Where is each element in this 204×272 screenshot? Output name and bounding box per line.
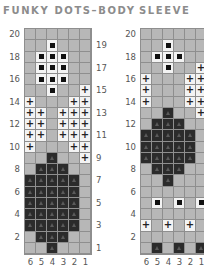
dot-icon [166, 54, 171, 59]
body-cell [47, 142, 58, 153]
triangle-icon [50, 212, 54, 216]
sleeve-cell [163, 142, 174, 153]
sleeve-cell [152, 232, 163, 243]
body-cell [80, 40, 91, 51]
triangle-icon [199, 246, 203, 250]
body-cell [58, 220, 69, 231]
body-cell [47, 164, 58, 175]
column-number-label: 4 [47, 257, 58, 267]
body-cell: + [80, 85, 91, 96]
row-number-label: 13 [96, 108, 107, 118]
plus-icon: + [26, 97, 34, 107]
sleeve-cell [196, 130, 204, 141]
body-cell [80, 175, 91, 186]
triangle-icon [39, 190, 43, 194]
row-number-label: 6 [6, 187, 20, 197]
body-cell [58, 209, 69, 220]
column-number-label: 2 [69, 257, 80, 267]
triangle-icon [28, 212, 32, 216]
body-cell [80, 232, 91, 243]
sleeve-cell [196, 198, 204, 209]
triangle-icon [155, 145, 159, 149]
body-cell: + [69, 142, 80, 153]
sleeve-cell [152, 209, 163, 220]
triangle-icon [50, 156, 54, 160]
sleeve-cell [185, 108, 196, 119]
body-cell [25, 40, 36, 51]
sleeve-cell [163, 52, 174, 63]
sleeve-cell [163, 153, 174, 164]
body-cell [25, 198, 36, 209]
body-cell [25, 85, 36, 96]
row-number-label: 4 [122, 209, 136, 219]
body-cell [25, 243, 36, 254]
body-cell [80, 164, 91, 175]
sleeve-cell [163, 175, 174, 186]
sleeve-cell [174, 198, 185, 209]
body-cell [80, 52, 91, 63]
body-cell [25, 63, 36, 74]
triangle-icon [50, 201, 54, 205]
triangle-icon [61, 167, 65, 171]
body-cell [36, 209, 47, 220]
triangle-icon [188, 145, 192, 149]
plus-icon: + [142, 97, 150, 107]
row-number-label: 1 [96, 243, 101, 253]
triangle-icon [166, 145, 170, 149]
plus-icon: + [70, 142, 78, 152]
body-cell [58, 63, 69, 74]
sleeve-cell [152, 40, 163, 51]
body-cell: + [25, 130, 36, 141]
plus-icon: + [37, 130, 45, 140]
triangle-icon [39, 178, 43, 182]
triangle-icon [28, 201, 32, 205]
row-number-label: 20 [6, 29, 20, 39]
triangle-icon [177, 167, 181, 171]
body-cell [47, 52, 58, 63]
body-cell [36, 74, 47, 85]
triangle-icon [155, 122, 159, 126]
triangle-icon [61, 201, 65, 205]
row-number-label: 5 [96, 198, 101, 208]
sleeve-cell [163, 164, 174, 175]
body-cell [36, 164, 47, 175]
body-cell: + [80, 153, 91, 164]
plus-icon: + [186, 220, 194, 230]
sleeve-cell [152, 130, 163, 141]
sleeve-cell [174, 187, 185, 198]
sleeve-cell [152, 85, 163, 96]
body-cell [25, 29, 36, 40]
row-number-label: 16 [122, 74, 136, 84]
row-number-label: 11 [96, 130, 107, 140]
row-number-label: 6 [122, 187, 136, 197]
dot-icon [155, 200, 160, 205]
triangle-icon [39, 201, 43, 205]
sleeve-cell [185, 119, 196, 130]
column-number-label: 1 [80, 257, 91, 267]
dot-icon [50, 54, 55, 59]
plus-icon: + [37, 108, 45, 118]
sleeve-cell [163, 74, 174, 85]
triangle-icon [28, 178, 32, 182]
plus-icon: + [81, 97, 89, 107]
body-cell [36, 198, 47, 209]
dot-icon [39, 65, 44, 70]
plus-icon: + [197, 74, 204, 84]
triangle-icon [155, 167, 159, 171]
sleeve-cell: + [185, 220, 196, 231]
sleeve-cell [185, 130, 196, 141]
sleeve-cell [174, 232, 185, 243]
body-cell [25, 164, 36, 175]
dot-icon [155, 54, 160, 59]
sleeve-cell: + [196, 85, 204, 96]
column-number-label: 1 [196, 257, 204, 267]
body-cell: + [69, 130, 80, 141]
plus-icon: + [81, 85, 89, 95]
plus-icon: + [59, 108, 67, 118]
sleeve-cell [185, 198, 196, 209]
sleeve-cell [141, 119, 152, 130]
plus-icon: + [197, 108, 204, 118]
row-number-label: 2 [122, 232, 136, 242]
body-cell [36, 232, 47, 243]
body-cell [25, 74, 36, 85]
